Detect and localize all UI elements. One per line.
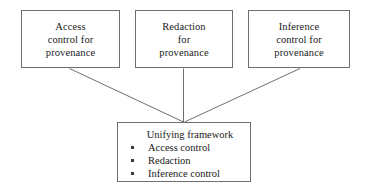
bullet-label: Redaction bbox=[148, 155, 191, 166]
unifying-framework-title: Unifying framework bbox=[118, 128, 250, 141]
node-redaction-line-1: Redaction bbox=[162, 20, 205, 33]
list-item: Inference control bbox=[118, 167, 250, 180]
unifying-framework-bullet-list: Access control Redaction Inference contr… bbox=[118, 141, 250, 180]
node-inference-line-2: control for bbox=[276, 33, 322, 46]
node-inference-control-for-provenance[interactable]: Inference control for provenance bbox=[248, 10, 350, 68]
node-redaction-line-2: for bbox=[178, 33, 191, 46]
list-item: Redaction bbox=[118, 154, 250, 167]
bullet-dot-icon bbox=[131, 172, 134, 175]
connector-access-to-unifying bbox=[70, 69, 184, 123]
node-redaction-line-3: provenance bbox=[159, 46, 208, 59]
bullet-dot-icon bbox=[131, 159, 134, 162]
node-access-line-1: Access bbox=[55, 20, 85, 33]
node-inference-line-1: Inference bbox=[279, 20, 320, 33]
node-access-control-for-provenance[interactable]: Access control for provenance bbox=[21, 10, 120, 68]
node-inference-line-3: provenance bbox=[274, 46, 323, 59]
connector-inference-to-unifying bbox=[185, 69, 301, 123]
bullet-label: Inference control bbox=[148, 168, 220, 179]
list-item: Access control bbox=[118, 141, 250, 154]
node-unifying-framework[interactable]: Unifying framework Access control Redact… bbox=[117, 122, 251, 182]
node-redaction-for-provenance[interactable]: Redaction for provenance bbox=[135, 10, 233, 68]
node-access-line-2: control for bbox=[48, 33, 94, 46]
bullet-dot-icon bbox=[131, 146, 134, 149]
diagram-canvas: Access control for provenance Redaction … bbox=[0, 0, 368, 186]
bullet-label: Access control bbox=[148, 142, 210, 153]
node-access-line-3: provenance bbox=[46, 46, 95, 59]
